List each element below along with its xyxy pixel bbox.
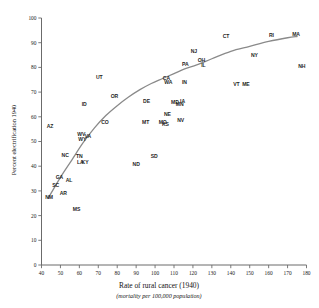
y-tick-label: 90 xyxy=(31,40,37,46)
state-point-nj: NJ xyxy=(191,48,198,54)
state-point-nc: NC xyxy=(62,152,70,158)
y-tick-label: 40 xyxy=(31,163,37,169)
x-tick-label: 50 xyxy=(58,270,64,276)
data-point-labels: AZNMSCGAARNCALMSTNLAKYWVWYVAIDUTCOORNDMT… xyxy=(45,31,306,212)
state-point-ma: MA xyxy=(292,31,300,37)
x-tick-label: 150 xyxy=(246,270,254,276)
state-point-sd: SD xyxy=(151,153,158,159)
y-tick-label: 20 xyxy=(31,213,37,219)
state-point-co: CO xyxy=(101,119,109,125)
x-tick-label: 60 xyxy=(77,270,83,276)
y-tick-label: 0 xyxy=(34,262,37,268)
state-point-wa: WA xyxy=(164,79,172,85)
state-point-ri: RI xyxy=(269,32,275,38)
state-point-de: DE xyxy=(143,98,151,104)
state-point-ks: KS xyxy=(162,121,170,127)
state-point-mt: MT xyxy=(142,119,150,125)
x-tick-label: 120 xyxy=(189,270,197,276)
state-point-vt: VT xyxy=(233,81,240,87)
state-point-tn: TN xyxy=(76,153,83,159)
y-axis-ticks: 0102030405060708090100 xyxy=(28,15,41,268)
x-tick-label: 90 xyxy=(133,270,139,276)
trend-curve xyxy=(48,37,297,199)
y-tick-label: 10 xyxy=(31,237,37,243)
x-tick-label: 110 xyxy=(170,270,178,276)
state-point-ar: AR xyxy=(60,190,68,196)
state-point-id: ID xyxy=(82,101,87,107)
x-tick-label: 180 xyxy=(302,270,310,276)
x-tick-label: 80 xyxy=(115,270,121,276)
x-tick-label: 40 xyxy=(39,270,45,276)
state-point-va: VA xyxy=(85,133,92,139)
state-point-az: AZ xyxy=(47,123,54,129)
state-point-ms: MS xyxy=(73,206,81,212)
y-tick-label: 30 xyxy=(31,188,37,194)
state-point-in: IN xyxy=(182,79,187,85)
scatter-chart: 0102030405060708090100 40506070809010011… xyxy=(0,0,319,308)
state-point-pa: PA xyxy=(182,61,189,67)
state-point-nd: ND xyxy=(133,161,141,167)
y-tick-label: 60 xyxy=(31,114,37,120)
state-point-ne: NE xyxy=(164,111,172,117)
state-point-ky: KY xyxy=(82,159,90,165)
state-point-ny: NY xyxy=(251,52,259,58)
y-tick-label: 100 xyxy=(28,15,36,21)
state-point-ga: GA xyxy=(56,174,64,180)
state-point-il: IL xyxy=(201,62,205,68)
state-point-sc: SC xyxy=(52,182,59,188)
x-tick-label: 160 xyxy=(265,270,273,276)
state-point-nm: NM xyxy=(45,194,53,200)
y-tick-label: 80 xyxy=(31,64,37,70)
state-point-al: AL xyxy=(66,177,73,183)
state-point-me: ME xyxy=(242,81,250,87)
plot-canvas: 0102030405060708090100 40506070809010011… xyxy=(0,0,319,308)
state-point-ut: UT xyxy=(96,74,104,80)
x-tick-label: 70 xyxy=(96,270,102,276)
x-axis-ticks: 405060708090100110120130140150160170180 xyxy=(39,265,311,276)
x-tick-label: 170 xyxy=(284,270,292,276)
state-point-ia: IA xyxy=(180,98,185,104)
x-tick-label: 130 xyxy=(208,270,216,276)
state-point-or: OR xyxy=(111,93,119,99)
x-tick-label: 100 xyxy=(151,270,159,276)
state-point-nh: NH xyxy=(298,63,306,69)
state-point-nv: NV xyxy=(177,117,185,123)
state-point-ct: CT xyxy=(223,33,231,39)
x-tick-label: 140 xyxy=(227,270,235,276)
y-tick-label: 70 xyxy=(31,89,37,95)
y-tick-label: 50 xyxy=(31,138,37,144)
